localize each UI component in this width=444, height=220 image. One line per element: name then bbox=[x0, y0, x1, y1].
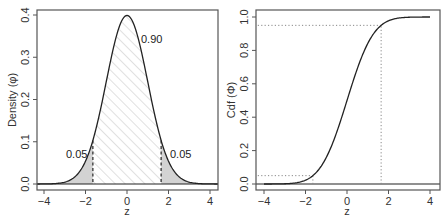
y-tick-label: 0.4 bbox=[19, 7, 31, 22]
x-tick-label: −2 bbox=[79, 195, 92, 207]
y-tick-label: 0.6 bbox=[238, 76, 250, 91]
y-tick-label: 0.3 bbox=[19, 50, 31, 65]
figure: 0.00.10.20.30.4 −4−2024 Density (φ) z 0.… bbox=[0, 0, 444, 220]
x-tick-label: −4 bbox=[258, 195, 271, 207]
left-tail-label: 0.05 bbox=[66, 148, 87, 160]
y-tick-label: 0.2 bbox=[238, 143, 250, 158]
y-tick-label: 1.0 bbox=[238, 9, 250, 24]
cdf-curve bbox=[264, 17, 430, 184]
x-tick-label: 2 bbox=[165, 195, 171, 207]
y-axis-title: Cdf (Φ) bbox=[225, 82, 237, 118]
right-tail-label: 0.05 bbox=[170, 148, 191, 160]
quantile-guides bbox=[258, 25, 381, 184]
x-tick-label: 2 bbox=[385, 195, 391, 207]
x-tick-label: 4 bbox=[427, 195, 433, 207]
y-axis: 0.00.10.20.30.4 bbox=[19, 7, 37, 191]
y-tick-label: 0.1 bbox=[19, 134, 31, 149]
x-axis-title: z bbox=[344, 205, 350, 217]
x-tick-label: 4 bbox=[207, 195, 213, 207]
right-tail-region bbox=[161, 140, 218, 184]
y-axis-title: Density (φ) bbox=[6, 73, 18, 127]
center-area-label: 0.90 bbox=[141, 33, 162, 45]
y-tick-label: 0.4 bbox=[238, 110, 250, 125]
plot-frame bbox=[256, 10, 440, 190]
x-tick-label: −4 bbox=[38, 195, 51, 207]
y-tick-label: 0.8 bbox=[238, 43, 250, 58]
density-plot: 0.00.10.20.30.4 −4−2024 Density (φ) z 0.… bbox=[6, 7, 218, 217]
y-tick-label: 0.2 bbox=[19, 92, 31, 107]
y-tick-label: 0.0 bbox=[19, 176, 31, 191]
y-axis: 0.00.20.40.60.81.0 bbox=[238, 9, 256, 191]
y-tick-label: 0.0 bbox=[238, 176, 250, 191]
cdf-plot: 0.00.20.40.60.81.0 −4−2024 Cdf (Φ) z bbox=[225, 9, 440, 217]
x-axis-title: z bbox=[124, 205, 130, 217]
left-tail-region bbox=[36, 140, 93, 184]
x-tick-label: −2 bbox=[299, 195, 312, 207]
